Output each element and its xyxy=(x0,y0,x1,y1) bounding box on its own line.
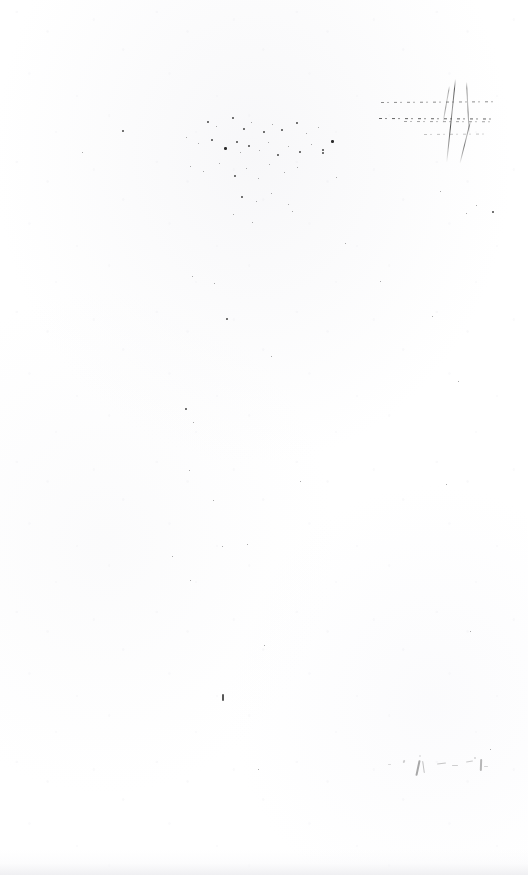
dust-speck xyxy=(211,139,213,141)
dust-speck xyxy=(82,152,83,153)
faint-ink-stroke xyxy=(415,760,420,776)
dust-speck xyxy=(190,166,191,167)
dust-speck xyxy=(380,281,381,282)
dust-speck xyxy=(213,500,214,501)
dust-speck xyxy=(240,152,241,153)
dust-speck xyxy=(264,645,265,646)
diagonal-ink-stroke xyxy=(459,121,471,164)
dust-speck xyxy=(458,381,459,382)
dust-speckle-cluster xyxy=(0,0,528,875)
dust-speck xyxy=(203,171,204,172)
page-description: Severely faded scanned document page; no… xyxy=(0,16,1,17)
dust-speck xyxy=(234,175,236,177)
dust-speck xyxy=(214,283,215,284)
dust-speck xyxy=(446,484,447,485)
dust-speck xyxy=(259,150,260,151)
paper-mottle-layer xyxy=(0,0,528,875)
dust-speck xyxy=(247,544,248,545)
faint-ink-stroke xyxy=(403,760,406,764)
faint-ink-stroke xyxy=(419,755,421,757)
dust-speck xyxy=(292,211,293,212)
dust-speck xyxy=(216,126,217,127)
dust-speck xyxy=(251,122,252,123)
dust-speck xyxy=(186,137,187,138)
dust-speck xyxy=(492,211,494,213)
dust-speck xyxy=(288,204,289,205)
dust-speck xyxy=(193,422,194,423)
dust-speck xyxy=(198,143,199,144)
dust-speck xyxy=(272,124,273,125)
dust-speck xyxy=(296,122,298,124)
dust-speck xyxy=(269,164,270,165)
dust-speck xyxy=(122,130,124,132)
dust-speck xyxy=(233,214,234,215)
dust-speck xyxy=(226,318,228,320)
faint-ink-stroke xyxy=(466,760,473,762)
dust-speck xyxy=(252,222,253,223)
dust-speck xyxy=(284,172,285,173)
dust-speck xyxy=(192,276,193,277)
dust-speck xyxy=(440,191,441,192)
dust-speck xyxy=(207,121,209,123)
dust-speck xyxy=(271,193,272,194)
dust-speck xyxy=(470,631,471,632)
dust-speck xyxy=(476,205,477,206)
dust-speck xyxy=(185,408,187,410)
dust-speck xyxy=(232,117,234,119)
dust-speck xyxy=(331,140,334,143)
residual-tick-mark xyxy=(0,0,528,875)
dust-speck xyxy=(322,152,324,154)
dust-speck xyxy=(336,177,337,178)
dust-speck xyxy=(190,580,191,581)
dust-speck xyxy=(263,131,265,133)
dust-speck xyxy=(256,201,257,202)
faint-ink-stroke xyxy=(422,761,425,773)
ruled-line-residue xyxy=(381,101,493,103)
ruled-line-residue xyxy=(424,133,488,135)
dust-speck xyxy=(306,133,307,134)
scattered-dust-specks xyxy=(0,0,528,875)
dust-speck xyxy=(248,145,250,147)
faint-ink-stroke xyxy=(474,757,476,759)
diagonal-ink-stroke xyxy=(446,79,456,163)
dust-speck xyxy=(345,243,346,244)
dust-speck xyxy=(224,147,227,150)
ruled-line-residue xyxy=(404,121,492,122)
dust-speck xyxy=(219,163,220,164)
dust-speck xyxy=(281,129,283,131)
diagonal-ink-stroke xyxy=(466,82,470,134)
dust-speck xyxy=(318,127,319,128)
dust-speck xyxy=(241,196,243,198)
dust-speck xyxy=(222,546,223,547)
scanned-document-page: Severely faded scanned document page; no… xyxy=(0,0,528,875)
dust-speck xyxy=(268,142,269,143)
faint-ink-stroke xyxy=(388,764,391,765)
diagonal-ink-stroke xyxy=(442,86,450,124)
dust-speck xyxy=(490,749,491,750)
dust-speck xyxy=(271,356,272,357)
bottom-edge-smudge xyxy=(0,849,528,875)
faint-ink-stroke xyxy=(484,766,488,767)
faint-ink-stroke xyxy=(437,763,446,765)
dust-speck xyxy=(466,213,467,214)
dust-speck xyxy=(236,141,238,143)
dust-speck xyxy=(311,144,312,145)
dust-speck xyxy=(277,154,279,156)
ruled-line-residue xyxy=(379,118,493,120)
dust-speck xyxy=(258,769,259,770)
dust-speck xyxy=(172,556,173,557)
faint-ink-stroke xyxy=(480,759,482,771)
dust-speck xyxy=(246,168,247,169)
residual-tick xyxy=(222,694,224,701)
dust-speck xyxy=(300,481,301,482)
dust-speck xyxy=(258,178,259,179)
dust-speck xyxy=(243,128,245,130)
dust-speck xyxy=(189,470,190,471)
faint-illegible-mark xyxy=(0,0,528,875)
dust-speck xyxy=(297,167,298,168)
paper-tone-layer xyxy=(0,0,528,875)
dust-speck xyxy=(288,146,289,147)
dust-speck xyxy=(322,149,324,151)
dust-speck xyxy=(299,151,301,153)
faint-ink-stroke xyxy=(452,765,458,766)
